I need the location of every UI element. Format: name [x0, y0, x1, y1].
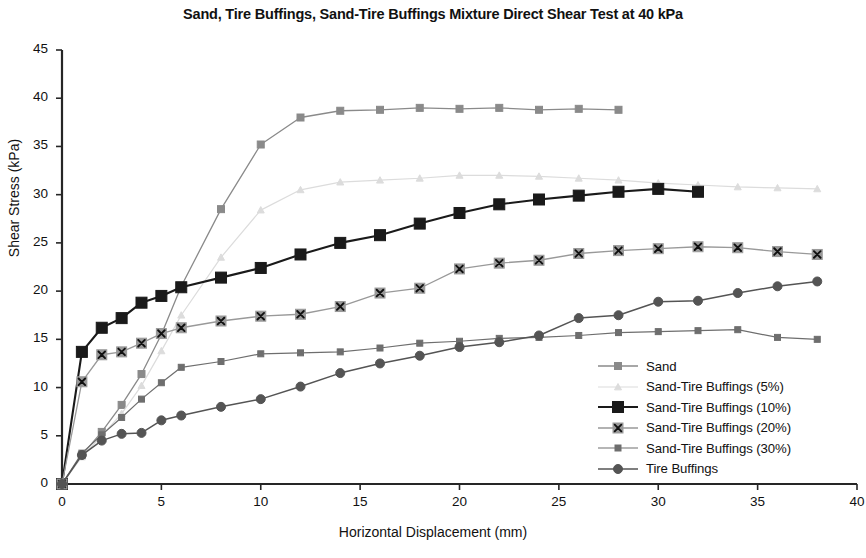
data-point-marker	[377, 345, 383, 351]
chart-container: Sand, Tire Buffings, Sand-Tire Buffings …	[0, 0, 866, 558]
data-point-marker	[653, 183, 664, 194]
data-point-marker	[455, 343, 464, 352]
data-point-marker	[297, 114, 304, 121]
data-point-marker	[535, 331, 544, 340]
data-point-marker	[773, 247, 783, 257]
data-point-marker	[257, 141, 264, 148]
legend-key-sand-tire-buffings-30	[596, 439, 640, 457]
x-tick-label: 15	[340, 494, 380, 509]
data-point-marker	[655, 329, 661, 335]
data-point-marker	[298, 350, 304, 356]
data-point-marker	[335, 237, 346, 248]
data-point-marker	[136, 297, 147, 308]
data-point-marker	[217, 402, 226, 411]
legend-key-sand-tire-buffings-5	[596, 378, 640, 396]
data-point-marker	[375, 288, 385, 298]
y-tick-label: 35	[14, 137, 48, 152]
data-point-marker	[138, 382, 145, 388]
data-point-marker	[377, 106, 384, 113]
data-point-marker	[176, 282, 187, 293]
y-tick-label: 25	[14, 234, 48, 249]
data-point-marker	[76, 346, 87, 357]
data-point-marker	[117, 429, 126, 438]
data-point-marker	[775, 334, 781, 340]
y-tick-label: 10	[14, 379, 48, 394]
data-point-marker	[218, 359, 224, 365]
data-point-marker	[296, 382, 305, 391]
legend-item-sand: Sand	[596, 356, 854, 377]
legend-key-glyph	[596, 357, 640, 375]
data-point-marker	[494, 258, 504, 268]
data-point-marker	[456, 105, 463, 112]
y-tick-label: 45	[14, 41, 48, 56]
data-point-marker	[119, 414, 125, 420]
data-point-marker	[574, 248, 584, 258]
data-point-marker	[216, 316, 226, 326]
data-point-marker	[536, 106, 543, 113]
legend-item-sand-tire-buffings-20: Sand-Tire Buffings (20%)	[596, 418, 854, 439]
data-point-marker	[415, 351, 424, 360]
data-point-marker	[455, 264, 465, 274]
data-point-marker	[416, 104, 423, 111]
legend-label-sand-tire-buffings-10: Sand-Tire Buffings (10%)	[640, 401, 791, 414]
x-tick-label: 35	[738, 494, 778, 509]
data-point-marker	[654, 297, 663, 306]
legend-key-sand	[596, 357, 640, 375]
y-tick-label: 40	[14, 89, 48, 104]
data-point-marker	[417, 340, 423, 346]
data-point-marker	[177, 411, 186, 420]
data-point-marker	[694, 296, 703, 305]
data-point-marker	[158, 380, 164, 386]
data-point-marker	[812, 249, 822, 259]
chart-legend: Sand Sand-Tire Buffings (5%) Sand-Tire B…	[596, 356, 854, 479]
data-point-marker	[494, 199, 505, 210]
legend-label-sand-tire-buffings-20: Sand-Tire Buffings (20%)	[640, 421, 791, 434]
data-point-marker	[615, 445, 621, 451]
data-point-marker	[296, 309, 306, 319]
data-point-marker	[693, 242, 703, 252]
legend-item-tire-buffings: Tire Buffings	[596, 459, 854, 480]
x-tick-label: 10	[241, 494, 281, 509]
y-tick-label: 5	[14, 427, 48, 442]
data-point-marker	[813, 277, 822, 286]
legend-item-sand-tire-buffings-10: Sand-Tire Buffings (10%)	[596, 397, 854, 418]
data-point-marker	[614, 464, 623, 473]
data-point-marker	[613, 186, 624, 197]
data-point-marker	[615, 106, 622, 113]
data-point-marker	[615, 363, 622, 370]
data-point-marker	[156, 329, 166, 339]
x-tick-label: 40	[837, 494, 866, 509]
data-point-marker	[335, 302, 345, 312]
series-line	[62, 108, 619, 484]
data-point-marker	[156, 290, 167, 301]
data-point-marker	[614, 246, 624, 256]
data-point-marker	[157, 416, 166, 425]
data-point-marker	[77, 451, 86, 460]
data-point-marker	[158, 347, 165, 353]
data-point-marker	[534, 194, 545, 205]
data-point-marker	[256, 311, 266, 321]
x-tick-label: 30	[638, 494, 678, 509]
legend-label-sand: Sand	[640, 360, 676, 373]
data-point-marker	[576, 332, 582, 338]
data-point-marker	[337, 349, 343, 355]
data-point-marker	[139, 396, 145, 402]
data-point-marker	[613, 402, 624, 413]
legend-key-glyph	[596, 460, 640, 478]
data-point-marker	[415, 283, 425, 293]
x-tick-label: 20	[440, 494, 480, 509]
data-point-marker	[117, 347, 127, 357]
legend-label-tire-buffings: Tire Buffings	[640, 462, 718, 475]
legend-label-sand-tire-buffings-5: Sand-Tire Buffings (5%)	[640, 380, 784, 393]
x-tick-label: 5	[141, 494, 181, 509]
legend-key-glyph	[596, 398, 640, 416]
legend-item-sand-tire-buffings-5: Sand-Tire Buffings (5%)	[596, 377, 854, 398]
data-point-marker	[336, 369, 345, 378]
legend-label-sand-tire-buffings-30: Sand-Tire Buffings (30%)	[640, 442, 791, 455]
legend-key-glyph	[596, 439, 640, 457]
data-point-marker	[97, 350, 107, 360]
data-point-marker	[97, 436, 106, 445]
data-point-marker	[218, 206, 225, 213]
legend-key-sand-tire-buffings-10	[596, 398, 640, 416]
data-point-marker	[58, 480, 67, 489]
